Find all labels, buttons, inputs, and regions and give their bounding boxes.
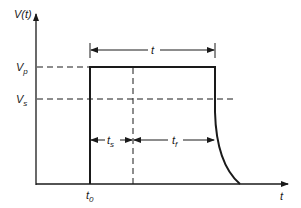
tf-label: tf — [172, 134, 178, 149]
pulse-diagram: V(t) t Vp Vs t0 t ts tf — [0, 0, 301, 208]
y-axis-label: V(t) — [14, 8, 32, 20]
vs-label: Vs — [16, 93, 27, 108]
t-interval-label: t — [151, 44, 155, 56]
x-axis-label: t — [280, 190, 284, 202]
ts-label: ts — [107, 134, 114, 149]
t0-label: t0 — [86, 189, 94, 204]
pulse-waveform — [90, 67, 240, 184]
vp-label: Vp — [16, 61, 28, 76]
